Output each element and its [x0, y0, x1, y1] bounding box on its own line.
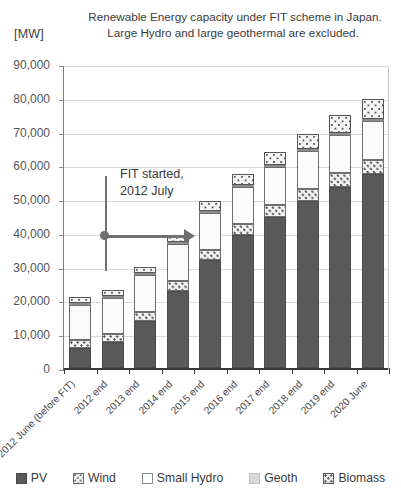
legend-item-biomass[interactable]: Biomass	[323, 471, 385, 485]
legend-label: Small Hydro	[157, 471, 223, 485]
bar-segment-wind	[167, 281, 189, 290]
bar-segment-pv	[134, 321, 156, 368]
stacked-bar[interactable]	[69, 297, 91, 368]
x-axis-tick-label: 2012 end	[71, 378, 109, 416]
y-axis-tick-label: 80,000	[0, 92, 58, 106]
legend-gap	[47, 478, 73, 479]
bar-segment-wind	[199, 250, 221, 260]
wind-swatch	[73, 473, 84, 484]
chart-title-line-2: Large Hydro and large geothermal are exc…	[72, 25, 398, 41]
legend-gap	[116, 478, 142, 479]
chart-title-line-1: Renewable Energy capacity under FIT sche…	[72, 9, 398, 25]
legend-item-pv[interactable]: PV	[16, 471, 47, 485]
bar-segment-pv	[232, 235, 254, 368]
legend-gap	[297, 478, 323, 479]
bar-segment-wind	[329, 173, 351, 186]
bar-segment-pv	[69, 348, 91, 368]
bar-segment-small-hydro	[362, 121, 384, 160]
bar-segment-pv	[362, 174, 384, 368]
bar-segment-wind	[102, 334, 124, 343]
y-axis-tick-label: 40,000	[0, 227, 58, 241]
bar-segment-biomass	[264, 152, 286, 165]
bar-segment-wind	[69, 340, 91, 349]
renewable-energy-capacity-chart: [MW] Renewable Energy capacity under FIT…	[0, 0, 401, 504]
stacked-bar[interactable]	[134, 267, 156, 368]
bar-segment-biomass	[329, 115, 351, 133]
bar-segment-small-hydro	[297, 151, 319, 189]
bar-segment-small-hydro	[329, 135, 351, 174]
y-axis-labels: 90,00080,00070,00060,00050,00040,00030,0…	[0, 66, 58, 370]
legend-item-geoth[interactable]: Geoth	[249, 471, 297, 485]
stacked-bar[interactable]	[167, 235, 189, 368]
biomass-swatch	[323, 473, 334, 484]
chart-title: Renewable Energy capacity under FIT sche…	[72, 9, 398, 40]
y-axis-tick-label: 70,000	[0, 126, 58, 140]
bar-segment-pv	[199, 260, 221, 368]
bar-series-group	[64, 64, 389, 368]
bar-segment-small-hydro	[264, 167, 286, 205]
stacked-bar[interactable]	[232, 174, 254, 368]
y-axis-tick-label: 90,000	[0, 58, 58, 72]
x-axis-tick-label: 2015 end	[169, 378, 207, 416]
bar-segment-wind	[297, 189, 319, 201]
bar-segment-biomass	[362, 99, 384, 120]
x-axis-tick-label: 2012 June (before FIT)	[0, 378, 77, 459]
legend-label: Geoth	[264, 471, 297, 485]
bar-segment-small-hydro	[232, 187, 254, 224]
bar-segment-wind	[134, 312, 156, 321]
y-axis-unit-label: [MW]	[14, 27, 44, 41]
bar-segment-wind	[264, 205, 286, 216]
y-axis-tick-label: 20,000	[0, 294, 58, 308]
bar-segment-biomass	[297, 134, 319, 149]
legend-label: Biomass	[338, 471, 385, 485]
x-axis-tick-label: 2014 end	[136, 378, 174, 416]
bar-segment-small-hydro	[199, 213, 221, 250]
geoth-swatch	[249, 473, 260, 484]
bar-segment-biomass	[232, 174, 254, 185]
legend-item-wind[interactable]: Wind	[73, 471, 116, 485]
stacked-bar[interactable]	[199, 201, 221, 368]
y-axis-tick-label: 50,000	[0, 193, 58, 207]
bar-segment-biomass	[199, 201, 221, 210]
bar-segment-pv	[264, 217, 286, 368]
bar-segment-wind	[362, 160, 384, 174]
bar-segment-wind	[232, 224, 254, 235]
stacked-bar[interactable]	[362, 99, 384, 368]
stacked-bar[interactable]	[102, 290, 124, 368]
legend-item-small-hydro[interactable]: Small Hydro	[142, 471, 223, 485]
bar-segment-biomass	[167, 235, 189, 243]
bar-segment-pv	[329, 187, 351, 368]
bar-segment-pv	[102, 342, 124, 368]
pv-swatch	[16, 473, 27, 484]
stacked-bar[interactable]	[264, 152, 286, 368]
bar-segment-small-hydro	[69, 305, 91, 340]
plot-area: FIT started, 2012 July	[63, 66, 388, 370]
legend-label: Wind	[88, 471, 116, 485]
chart-legend: PVWindSmall HydroGeothBiomass	[0, 471, 401, 485]
bar-segment-small-hydro	[134, 275, 156, 311]
x-axis-tick-label: 2018 end	[266, 378, 304, 416]
stacked-bar[interactable]	[297, 134, 319, 368]
stacked-bar[interactable]	[329, 115, 351, 368]
x-axis-tick-label: 2017 end	[234, 378, 272, 416]
small-hydro-swatch	[142, 473, 153, 484]
y-axis-tick-label: 30,000	[0, 261, 58, 275]
bar-segment-pv	[297, 201, 319, 368]
legend-gap	[223, 478, 249, 479]
x-axis-tick-label: 2013 end	[104, 378, 142, 416]
y-axis-tick-label: 10,000	[0, 328, 58, 342]
bar-segment-small-hydro	[102, 298, 124, 334]
y-axis-tick-label: 60,000	[0, 159, 58, 173]
bar-segment-small-hydro	[167, 244, 189, 281]
y-axis-tick-label: 0	[0, 362, 58, 376]
x-axis-tick-label: 2016 end	[201, 378, 239, 416]
legend-label: PV	[31, 471, 47, 485]
x-axis-labels: 2012 June (before FIT)2012 end2013 end20…	[63, 374, 393, 460]
bar-segment-pv	[167, 291, 189, 368]
